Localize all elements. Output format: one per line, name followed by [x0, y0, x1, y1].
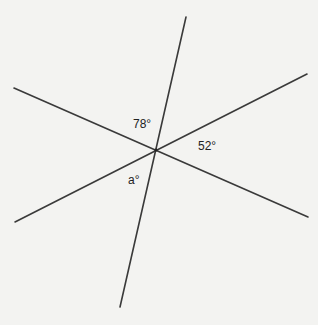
line-descending: [14, 88, 308, 217]
intersection-point: [154, 148, 157, 151]
diagram-canvas: 78° 52° a°: [0, 0, 318, 325]
line-ascending: [15, 74, 307, 222]
angle-52-label: 52°: [198, 139, 216, 153]
intersecting-lines-diagram: 78° 52° a°: [0, 0, 318, 325]
angle-78-label: 78°: [133, 117, 151, 131]
angle-a-label: a°: [128, 173, 140, 187]
line-steep: [120, 17, 186, 307]
